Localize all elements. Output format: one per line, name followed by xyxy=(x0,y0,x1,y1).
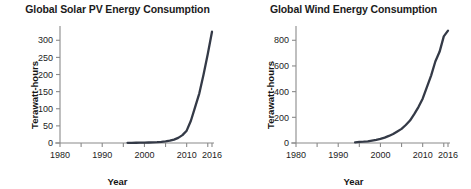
data-series-line xyxy=(128,32,212,143)
x-tick-label: 2016 xyxy=(438,150,458,160)
x-tick-label: 1990 xyxy=(328,150,348,160)
y-tick-label: 800 xyxy=(274,35,289,45)
y-tick-label: 150 xyxy=(38,87,53,97)
plot-svg-wind: 020040060080019801990200020102016 xyxy=(236,0,471,189)
y-tick-label: 200 xyxy=(38,70,53,80)
plot-area-wind: 020040060080019801990200020102016 xyxy=(236,0,471,189)
y-tick-label: 300 xyxy=(38,35,53,45)
x-axis-label-solar: Year xyxy=(30,176,205,187)
x-tick-label: 2000 xyxy=(134,150,154,160)
y-tick-label: 600 xyxy=(274,61,289,71)
x-tick-label: 1980 xyxy=(50,150,70,160)
plot-area-solar: 05010015020025030019801990200020102016 xyxy=(0,0,235,189)
y-tick-label: 100 xyxy=(38,104,53,114)
chart-panel-wind: Global Wind Energy Consumption Terawatt-… xyxy=(236,0,471,189)
x-tick-label: 2010 xyxy=(177,150,197,160)
y-tick-label: 400 xyxy=(274,87,289,97)
y-tick-label: 50 xyxy=(43,121,53,131)
y-tick-label: 250 xyxy=(38,53,53,63)
y-tick-label: 0 xyxy=(284,138,289,148)
y-tick-label: 0 xyxy=(48,138,53,148)
chart-panel-solar: Global Solar PV Energy Consumption Teraw… xyxy=(0,0,235,189)
figure-root: Global Solar PV Energy Consumption Teraw… xyxy=(0,0,471,189)
x-tick-label: 2000 xyxy=(370,150,390,160)
data-series-line xyxy=(355,31,448,143)
x-tick-label: 1980 xyxy=(286,150,306,160)
plot-svg-solar: 05010015020025030019801990200020102016 xyxy=(0,0,235,189)
x-axis-label-wind: Year xyxy=(266,176,441,187)
x-tick-label: 1990 xyxy=(92,150,112,160)
y-tick-label: 200 xyxy=(274,113,289,123)
x-tick-label: 2010 xyxy=(413,150,433,160)
x-tick-label: 2016 xyxy=(202,150,222,160)
